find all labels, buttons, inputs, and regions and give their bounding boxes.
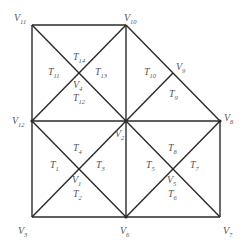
triangle-label-t4: T4 [73, 142, 83, 155]
vertex-label-v7: V7 [223, 225, 233, 238]
mesh-edges [30, 25, 221, 219]
triangle-label-t1: T1 [50, 159, 59, 172]
edge-v9-v2 [126, 73, 173, 121]
triangle-label-t3: T3 [96, 159, 106, 172]
triangle-label-t5: T5 [146, 159, 156, 172]
triangle-label-t12: T12 [73, 92, 86, 105]
vertex-label-v4: V4 [73, 79, 83, 92]
vertex-label-v11: V11 [14, 12, 26, 25]
vertex-label-v5: V5 [167, 174, 177, 187]
vertex-label-v6: V6 [120, 225, 130, 238]
vertex-label-v9: V9 [176, 61, 186, 74]
vertex-dot-v6 [124, 215, 127, 218]
triangulated-mesh-diagram: V1V2V3V4V5V6V7V8V9V10V11V12 T1T2T3T4T5T6… [0, 0, 243, 248]
edge-v9-v8 [173, 73, 220, 121]
triangle-label-t13: T13 [95, 66, 108, 79]
triangle-label-t14: T14 [73, 51, 86, 64]
vertex-label-v12: V12 [12, 115, 25, 128]
triangle-label-t9: T9 [169, 88, 179, 101]
triangle-label-t2: T2 [73, 188, 83, 201]
triangle-label-t8: T8 [168, 142, 178, 155]
vertex-dot-v2 [124, 119, 127, 122]
triangle-label-t7: T7 [190, 159, 200, 172]
vertex-label-v8: V8 [224, 112, 234, 125]
vertex-label-v3: V3 [18, 225, 28, 238]
vertex-label-v2: V2 [115, 128, 125, 141]
triangle-label-t11: T11 [48, 66, 60, 79]
vertex-dot-v8 [218, 119, 221, 122]
vertex-label-v10: V10 [124, 12, 137, 25]
triangle-label-t6: T6 [168, 188, 178, 201]
vertex-dot-v12 [30, 119, 33, 122]
vertex-label-v1: V1 [72, 174, 81, 187]
triangle-label-t10: T10 [144, 66, 157, 79]
